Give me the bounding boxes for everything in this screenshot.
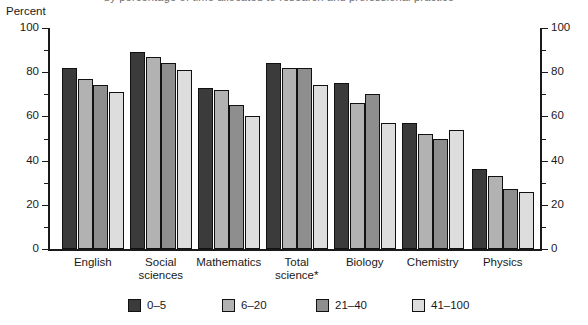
y-tick-label-right-40: 40 (551, 155, 564, 167)
legend-item[interactable]: 0–5 (128, 299, 166, 312)
chart-legend: 0–56–2021–4041–100 (0, 299, 588, 317)
bar (245, 116, 260, 249)
y-tick-right-0 (542, 249, 548, 250)
legend-label: 0–5 (147, 300, 166, 312)
y-tick-label-right-0: 0 (551, 243, 557, 255)
plot-area: 002020404060608080100100 (48, 28, 542, 249)
legend-item[interactable]: 21–40 (316, 299, 367, 312)
legend-item[interactable]: 6–20 (222, 299, 267, 312)
bar (433, 139, 448, 250)
clipped-title-strip: by percentage of time allocated to resea… (0, 0, 588, 6)
legend-swatch-icon (222, 299, 235, 312)
bar-group (472, 28, 534, 249)
bar (488, 176, 503, 249)
bar (282, 68, 297, 249)
y-tick-right-20 (542, 205, 548, 206)
bar (62, 68, 77, 249)
y-tick-label-left-0: 0 (33, 243, 39, 255)
bar (350, 103, 365, 249)
legend-swatch-icon (412, 299, 425, 312)
bar (177, 70, 192, 249)
bar-group (62, 28, 124, 249)
bar-group (334, 28, 396, 249)
bar (381, 123, 396, 249)
bar (472, 169, 487, 249)
bar (334, 83, 349, 249)
y-tick-right-40 (542, 161, 548, 162)
bar (93, 85, 108, 249)
y-axis-unit-label: Percent (6, 5, 46, 17)
bar (402, 123, 417, 249)
y-tick-left-0 (42, 249, 48, 250)
bar (109, 92, 124, 249)
bar (229, 105, 244, 249)
y-tick-right-80 (542, 72, 548, 73)
bar-group (130, 28, 192, 249)
y-tick-label-left-60: 60 (26, 110, 39, 122)
legend-label: 21–40 (335, 300, 367, 312)
y-tick-label-left-100: 100 (20, 22, 39, 34)
bar (266, 63, 281, 249)
bar (519, 192, 534, 249)
y-tick-label-right-20: 20 (551, 199, 564, 211)
legend-item[interactable]: 41–100 (412, 299, 469, 312)
bar-chart: by percentage of time allocated to resea… (0, 0, 588, 325)
y-tick-right-30 (542, 183, 546, 184)
y-tick-right-70 (542, 94, 546, 95)
bar (297, 68, 312, 249)
x-axis-line (48, 249, 542, 251)
bar (146, 57, 161, 249)
legend-label: 6–20 (241, 300, 267, 312)
y-tick-label-right-80: 80 (551, 66, 564, 78)
bar (78, 79, 93, 249)
bar (198, 88, 213, 249)
bar (161, 63, 176, 249)
bar (503, 189, 518, 249)
bars-layer (48, 28, 542, 249)
bar (365, 94, 380, 249)
legend-swatch-icon (316, 299, 329, 312)
bar (214, 90, 229, 249)
chart-title: by percentage of time allocated to resea… (104, 0, 454, 3)
y-tick-right-10 (542, 227, 546, 228)
legend-label: 41–100 (431, 300, 469, 312)
bar (449, 130, 464, 249)
y-tick-label-right-60: 60 (551, 110, 564, 122)
bar-group (198, 28, 260, 249)
y-tick-label-left-80: 80 (26, 66, 39, 78)
y-tick-label-right-100: 100 (551, 22, 570, 34)
bar (418, 134, 433, 249)
legend-swatch-icon (128, 299, 141, 312)
bar-group (402, 28, 464, 249)
y-tick-label-left-40: 40 (26, 155, 39, 167)
y-tick-right-100 (542, 28, 548, 29)
bar (130, 52, 145, 249)
bar-group (266, 28, 328, 249)
x-axis-label: Physics (450, 256, 556, 269)
y-tick-right-50 (542, 139, 546, 140)
y-tick-right-60 (542, 116, 548, 117)
x-axis-category-labels: EnglishSocial sciencesMathematicsTotal s… (48, 256, 542, 290)
bar (313, 85, 328, 249)
y-tick-right-90 (542, 50, 546, 51)
y-tick-label-left-20: 20 (26, 199, 39, 211)
